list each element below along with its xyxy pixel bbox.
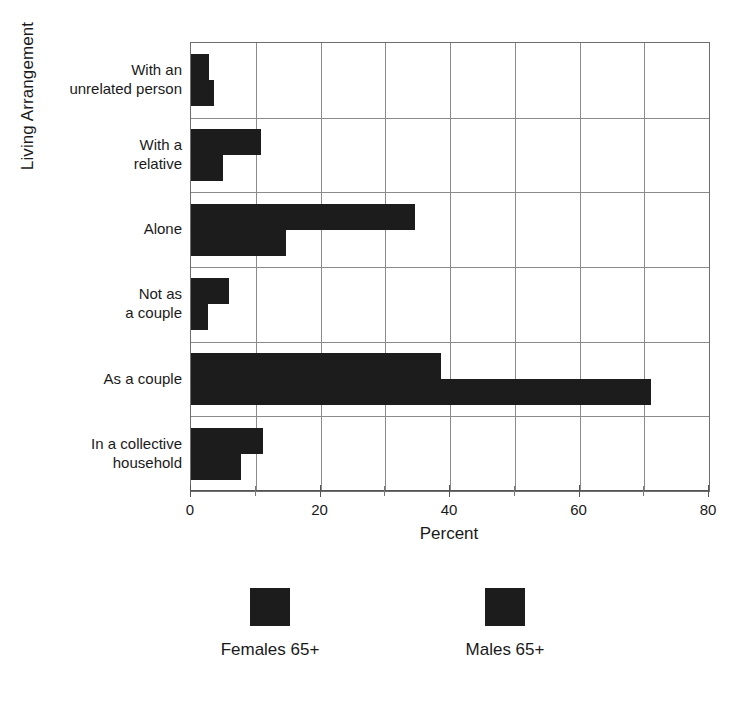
- category-label: Alone: [60, 219, 182, 238]
- bar-group: [191, 342, 709, 417]
- x-axis-tick: [579, 485, 580, 497]
- bar: [191, 155, 223, 181]
- category-label-line: relative: [60, 154, 182, 173]
- legend-swatch: [485, 588, 525, 626]
- category-label: In a collectivehousehold: [60, 434, 182, 472]
- category-label-line: a couple: [60, 303, 182, 322]
- bar-group: [191, 192, 709, 267]
- x-axis-title: Percent: [190, 524, 708, 544]
- x-axis-tick-label: 60: [549, 501, 609, 518]
- x-axis-tick-label: 80: [678, 501, 738, 518]
- bar: [191, 230, 286, 256]
- bar: [191, 54, 209, 80]
- legend-entry[interactable]: Females 65+: [160, 588, 380, 660]
- bar-group: [191, 118, 709, 193]
- category-label-line: With a: [60, 135, 182, 154]
- x-axis-tick: [449, 485, 450, 497]
- category-label: Not asa couple: [60, 284, 182, 322]
- legend-label: Females 65+: [160, 640, 380, 660]
- legend-entry[interactable]: Males 65+: [395, 588, 615, 660]
- legend-swatch: [250, 588, 290, 626]
- x-axis-tick-label: 0: [160, 501, 220, 518]
- chart-legend: Females 65+Males 65+: [0, 588, 749, 678]
- bar: [191, 204, 415, 230]
- bar: [191, 379, 651, 405]
- category-label-line: With an: [60, 60, 182, 79]
- x-axis-tick: [320, 485, 321, 497]
- y-axis-title: Living Arrangement: [18, 0, 44, 196]
- x-axis-tick: [190, 485, 191, 497]
- bar: [191, 129, 261, 155]
- x-axis-tick-label: 20: [290, 501, 350, 518]
- bar-group: [191, 416, 709, 491]
- category-label: With anunrelated person: [60, 60, 182, 98]
- category-label: With arelative: [60, 135, 182, 173]
- x-axis-minor-tick: [643, 486, 644, 496]
- bar: [191, 353, 441, 379]
- category-label-line: Not as: [60, 284, 182, 303]
- bar: [191, 428, 263, 454]
- plot-area: [190, 42, 710, 492]
- bar: [191, 278, 229, 304]
- x-axis-tick: [708, 485, 709, 497]
- category-label-line: unrelated person: [60, 79, 182, 98]
- x-axis-minor-tick: [514, 486, 515, 496]
- category-axis-labels: With anunrelated personWith arelativeAlo…: [60, 42, 182, 490]
- bar-chart-figure: Living Arrangement With anunrelated pers…: [0, 0, 749, 703]
- bar-group: [191, 267, 709, 342]
- x-axis-minor-tick: [384, 486, 385, 496]
- bar-group: [191, 43, 709, 118]
- category-label: As a couple: [60, 369, 182, 388]
- category-label-line: As a couple: [60, 369, 182, 388]
- category-label-line: household: [60, 453, 182, 472]
- category-label-line: In a collective: [60, 434, 182, 453]
- bar: [191, 454, 241, 480]
- bar: [191, 304, 208, 330]
- bar: [191, 80, 214, 106]
- category-label-line: Alone: [60, 219, 182, 238]
- legend-label: Males 65+: [395, 640, 615, 660]
- x-axis-minor-tick: [255, 486, 256, 496]
- x-axis: 020406080: [190, 490, 708, 491]
- x-axis-tick-label: 40: [419, 501, 479, 518]
